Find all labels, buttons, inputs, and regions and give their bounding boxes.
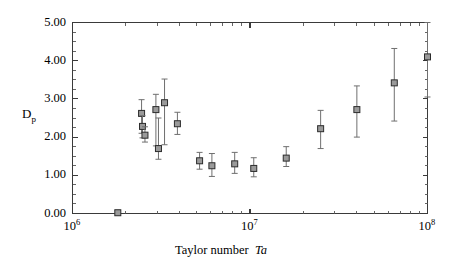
data-point bbox=[209, 154, 215, 177]
y-tick-label: 1.00 bbox=[26, 167, 66, 182]
data-point bbox=[197, 152, 203, 169]
x-tick-label: 106 bbox=[64, 217, 81, 234]
y-tick-label: 5.00 bbox=[26, 15, 66, 30]
data-point bbox=[391, 48, 397, 121]
y-tick-label: 3.00 bbox=[26, 91, 66, 106]
x-tick-label: 107 bbox=[241, 217, 258, 234]
data-marker bbox=[153, 107, 159, 113]
y-tick-label: 2.00 bbox=[26, 129, 66, 144]
data-marker bbox=[283, 155, 289, 161]
data-point bbox=[162, 79, 168, 145]
data-point bbox=[251, 158, 257, 177]
x-tick-label-base: 10 bbox=[64, 219, 77, 233]
axes-border bbox=[73, 23, 428, 214]
x-axis-ticks bbox=[73, 23, 428, 214]
x-tick-label-exponent: 6 bbox=[76, 217, 80, 227]
data-marker bbox=[391, 80, 397, 86]
y-tick-label: 0.00 bbox=[26, 206, 66, 221]
data-point bbox=[354, 86, 360, 137]
data-point bbox=[115, 210, 121, 216]
data-marker bbox=[354, 107, 360, 113]
y-axis-ticks bbox=[73, 23, 428, 214]
data-marker bbox=[155, 146, 161, 152]
chart-figure: Dp Taylor number Ta 0.001.002.003.004.00… bbox=[0, 0, 451, 270]
data-marker bbox=[251, 165, 257, 171]
data-point bbox=[425, 23, 431, 97]
data-marker bbox=[142, 132, 148, 138]
data-point bbox=[232, 152, 238, 173]
x-tick-label-exponent: 8 bbox=[431, 217, 435, 227]
x-tick-label-base: 10 bbox=[241, 219, 254, 233]
x-tick-label: 108 bbox=[419, 217, 436, 234]
data-point bbox=[283, 147, 289, 167]
data-marker bbox=[197, 158, 203, 164]
axes-frame bbox=[73, 23, 428, 214]
x-tick-label-exponent: 7 bbox=[254, 217, 258, 227]
data-point bbox=[318, 110, 324, 148]
data-point bbox=[174, 112, 180, 134]
y-tick-label: 4.00 bbox=[26, 53, 66, 68]
data-marker bbox=[174, 121, 180, 127]
data-marker bbox=[209, 163, 215, 169]
data-marker bbox=[115, 210, 121, 216]
data-marker bbox=[425, 54, 431, 60]
data-marker bbox=[162, 100, 168, 106]
data-series-points bbox=[115, 23, 431, 216]
x-tick-label-base: 10 bbox=[419, 219, 432, 233]
data-marker bbox=[232, 161, 238, 167]
data-marker bbox=[318, 126, 324, 132]
